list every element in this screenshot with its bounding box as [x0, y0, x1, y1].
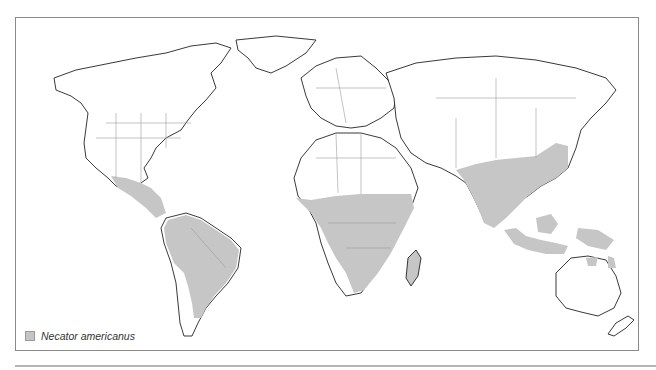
- shaded-mexico-central-america: [111, 176, 166, 218]
- greenland: [236, 36, 316, 73]
- map-frame: Necator americanus: [15, 17, 639, 351]
- legend-swatch-necator-americanus: [25, 331, 35, 341]
- legend: Necator americanus: [25, 330, 135, 342]
- world-map: [16, 18, 640, 352]
- shaded-sub-saharan-africa: [296, 194, 414, 293]
- shaded-borneo: [536, 214, 558, 234]
- bottom-rule: [15, 365, 656, 367]
- shaded-madagascar: [406, 250, 421, 286]
- europe: [301, 56, 396, 128]
- legend-label: Necator americanus: [41, 330, 135, 342]
- shaded-new-guinea: [576, 228, 614, 250]
- shaded-indonesia: [504, 228, 568, 254]
- north-america: [54, 43, 231, 190]
- new-zealand: [608, 316, 634, 336]
